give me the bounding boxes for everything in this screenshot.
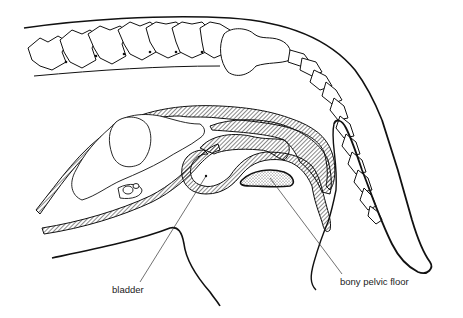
bladder-pointer-dot <box>205 175 207 177</box>
spine-lower-line <box>34 66 220 76</box>
pelvic-floor-leader-line <box>270 178 342 274</box>
anatomy-diagram <box>0 0 463 318</box>
bladder-label: bladder <box>112 284 144 295</box>
bony-pelvic-floor-label: bony pelvic floor <box>340 276 409 287</box>
puppy <box>72 115 205 201</box>
bladder-wall <box>182 150 331 232</box>
bladder-leader-line <box>140 176 206 282</box>
bony-pelvic-floor <box>240 170 293 187</box>
